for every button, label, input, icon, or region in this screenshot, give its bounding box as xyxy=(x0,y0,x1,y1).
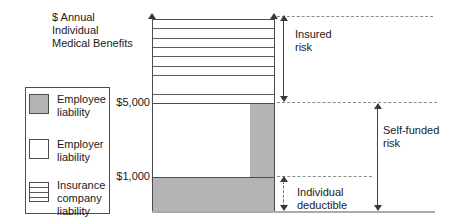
insured-risk-arrow-up-arrowhead-icon xyxy=(280,15,288,21)
benefits-diagram: $ Annual Individual Medical Benefits Emp… xyxy=(0,0,456,223)
employee-deductible-section xyxy=(152,177,275,212)
employee-liability-swatch-icon xyxy=(29,94,49,114)
y-label-5000: $5,000 xyxy=(110,96,150,109)
individual-deductible-label: Individual deductible xyxy=(297,186,347,212)
individual-deductible-arrow xyxy=(283,181,284,207)
1000-dashed-line xyxy=(277,176,372,177)
figure-title: $ Annual Individual Medical Benefits xyxy=(52,11,133,50)
self-funded-arrow-up-arrowhead-icon xyxy=(374,103,382,109)
legend-item-label: Employee liability xyxy=(57,93,106,119)
bar-left-edge-up-arrowhead-icon xyxy=(148,13,156,19)
employee-coinsurance-strip xyxy=(250,104,274,177)
insured-risk-arrow-down-arrowhead-icon xyxy=(280,96,288,102)
employer-liability-section xyxy=(152,103,275,177)
employer-liability-swatch-icon xyxy=(29,139,49,159)
insured-risk-section xyxy=(152,19,275,103)
5000-dashed-line xyxy=(277,102,437,103)
insurance-liability-swatch-icon xyxy=(29,182,49,202)
y-label-1000: $1,000 xyxy=(110,170,150,183)
self-funded-risk-label: Self-funded risk xyxy=(383,124,439,150)
deductible-arrow-up-arrowhead-icon xyxy=(280,176,288,182)
insured-risk-arrow xyxy=(283,20,284,98)
legend-box: Employee liability Employer liability In… xyxy=(25,87,110,214)
self-funded-risk-arrow xyxy=(377,108,378,205)
legend-item-label: Employer liability xyxy=(57,138,103,164)
legend-item-label: Insurance company liability xyxy=(57,179,105,218)
top-dashed-line xyxy=(277,16,433,17)
insured-risk-label: Insured risk xyxy=(295,28,332,54)
baseline xyxy=(152,211,435,213)
